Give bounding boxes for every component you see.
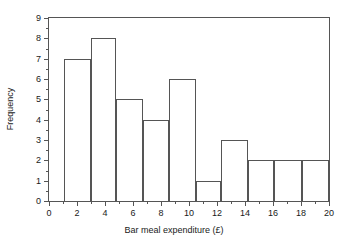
- x-tick-label: 4: [102, 209, 107, 218]
- x-tick-label: 10: [184, 209, 194, 218]
- bars-layer: [49, 18, 329, 201]
- y-tick-label: 0: [36, 197, 41, 206]
- x-tick-minor: [203, 201, 204, 204]
- x-tick-label: 20: [324, 209, 334, 218]
- y-tick-mark: [44, 79, 49, 80]
- x-tick-minor: [315, 201, 316, 204]
- y-tick-minor: [46, 191, 49, 192]
- histogram-bar: [196, 181, 221, 201]
- histogram-bar: [274, 160, 302, 201]
- histogram-bar: [302, 160, 329, 201]
- x-tick-minor: [91, 201, 92, 204]
- x-tick-mark: [105, 201, 106, 206]
- x-tick-mark: [161, 201, 162, 206]
- y-tick-minor: [46, 69, 49, 70]
- y-tick-minor: [46, 171, 49, 172]
- x-tick-mark: [273, 201, 274, 206]
- y-tick-label: 2: [36, 156, 41, 165]
- x-tick-minor: [119, 201, 120, 204]
- x-tick-label: 16: [268, 209, 278, 218]
- x-tick-minor: [287, 201, 288, 204]
- histogram-figure: 0123456789 02468101214161820 Frequency B…: [0, 0, 348, 248]
- y-tick-label: 4: [36, 115, 41, 124]
- y-tick-mark: [44, 160, 49, 161]
- x-tick-mark: [217, 201, 218, 206]
- x-tick-minor: [231, 201, 232, 204]
- y-tick-label: 3: [36, 136, 41, 145]
- y-tick-mark: [44, 59, 49, 60]
- x-tick-minor: [259, 201, 260, 204]
- y-tick-minor: [46, 130, 49, 131]
- y-tick-label: 5: [36, 95, 41, 104]
- x-tick-mark: [301, 201, 302, 206]
- y-tick-mark: [44, 18, 49, 19]
- x-tick-label: 12: [212, 209, 222, 218]
- x-tick-label: 18: [296, 209, 306, 218]
- x-tick-label: 0: [46, 209, 51, 218]
- x-tick-mark: [245, 201, 246, 206]
- y-axis-title: Frequency: [6, 88, 15, 131]
- y-tick-mark: [44, 38, 49, 39]
- y-tick-minor: [46, 150, 49, 151]
- y-tick-minor: [46, 110, 49, 111]
- y-tick-label: 1: [36, 176, 41, 185]
- y-tick-mark: [44, 181, 49, 182]
- x-tick-label: 2: [74, 209, 79, 218]
- x-tick-label: 14: [240, 209, 250, 218]
- y-tick-minor: [46, 28, 49, 29]
- y-tick-label: 7: [36, 54, 41, 63]
- histogram-bar: [143, 120, 170, 201]
- histogram-bar: [221, 140, 248, 201]
- x-tick-label: 8: [158, 209, 163, 218]
- x-tick-mark: [329, 201, 330, 206]
- x-tick-mark: [189, 201, 190, 206]
- y-tick-label: 9: [36, 14, 41, 23]
- x-axis-title: Bar meal expenditure (£): [0, 226, 348, 235]
- x-tick-mark: [133, 201, 134, 206]
- y-tick-mark: [44, 140, 49, 141]
- x-tick-minor: [175, 201, 176, 204]
- histogram-bar: [248, 160, 275, 201]
- x-tick-mark: [49, 201, 50, 206]
- x-tick-label: 6: [130, 209, 135, 218]
- y-tick-label: 8: [36, 34, 41, 43]
- x-tick-minor: [63, 201, 64, 204]
- y-tick-minor: [46, 89, 49, 90]
- histogram-bar: [116, 99, 143, 201]
- histogram-bar: [169, 79, 196, 201]
- y-tick-label: 6: [36, 75, 41, 84]
- plot-area: 0123456789 02468101214161820: [48, 17, 330, 202]
- x-tick-minor: [147, 201, 148, 204]
- histogram-bar: [91, 38, 116, 201]
- y-tick-mark: [44, 120, 49, 121]
- x-tick-mark: [77, 201, 78, 206]
- histogram-bar: [64, 59, 91, 201]
- y-tick-minor: [46, 49, 49, 50]
- y-tick-mark: [44, 99, 49, 100]
